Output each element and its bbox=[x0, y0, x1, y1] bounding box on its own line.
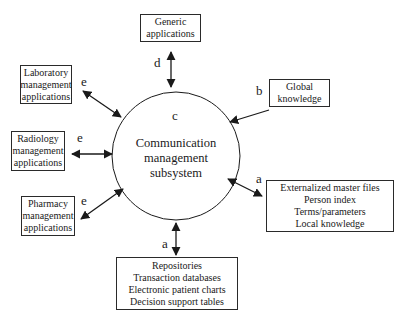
center-line-2: management bbox=[126, 151, 226, 166]
node-text: knowledge bbox=[278, 93, 322, 105]
arrow-global bbox=[230, 110, 269, 122]
edge-label-a-master: a bbox=[256, 172, 262, 185]
node-text: Repositories bbox=[152, 260, 202, 272]
node-text: Global bbox=[286, 81, 313, 93]
edge-label-e-pharmacy: e bbox=[81, 194, 87, 207]
edge-label-e-lab: e bbox=[81, 75, 87, 88]
node-laboratory-management: Laboratory management applications bbox=[20, 65, 72, 104]
node-text: Decision support tables bbox=[130, 296, 224, 308]
arrow-pharmacy bbox=[81, 189, 123, 219]
node-global-knowledge: Global knowledge bbox=[269, 79, 330, 107]
center-line-1: Communication bbox=[126, 136, 226, 151]
node-text: Person index bbox=[304, 194, 356, 206]
node-text: Laboratory bbox=[24, 67, 68, 79]
center-line-3: subsystem bbox=[126, 166, 226, 181]
node-text: Radiology bbox=[17, 133, 59, 145]
node-text: applications bbox=[146, 28, 194, 40]
node-text: management bbox=[20, 79, 71, 91]
node-text: applications bbox=[22, 91, 70, 103]
node-externalized-master-files: Externalized master files Person index T… bbox=[266, 180, 394, 232]
central-subsystem-title: Communication management subsystem bbox=[126, 136, 226, 181]
edge-label-b: b bbox=[256, 84, 263, 97]
node-text: Externalized master files bbox=[280, 182, 379, 194]
node-text: management bbox=[22, 210, 73, 222]
node-text: Transaction databases bbox=[133, 272, 221, 284]
node-text: applications bbox=[24, 222, 72, 234]
node-text: Local knowledge bbox=[295, 218, 364, 230]
node-repositories: Repositories Transaction databases Elect… bbox=[116, 257, 238, 310]
node-radiology-management: Radiology management applications bbox=[11, 131, 65, 171]
node-text: Pharmacy bbox=[28, 198, 68, 210]
node-generic-applications: Generic applications bbox=[140, 14, 201, 42]
node-text: Generic bbox=[155, 16, 187, 28]
node-text: Terms/parameters bbox=[294, 206, 366, 218]
node-text: management bbox=[12, 145, 63, 157]
arrow-lab bbox=[83, 91, 121, 117]
node-text: Electronic patient charts bbox=[128, 284, 225, 296]
node-text: applications bbox=[14, 157, 62, 169]
center-label: c bbox=[172, 109, 178, 122]
edge-label-e-radiology: e bbox=[77, 131, 83, 144]
edge-label-d: d bbox=[154, 56, 161, 69]
node-pharmacy-management: Pharmacy management applications bbox=[21, 196, 75, 236]
edge-label-a-repositories: a bbox=[162, 237, 168, 250]
